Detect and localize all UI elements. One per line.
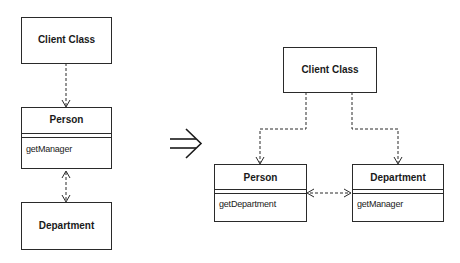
before-person-class-box: Person getManager	[21, 107, 112, 169]
class-name: Client Class	[22, 34, 111, 45]
class-name: Person	[22, 114, 111, 125]
class-name: Department	[353, 172, 443, 183]
attributes-separator	[215, 189, 306, 190]
methods-separator	[215, 193, 306, 194]
methods-separator	[353, 193, 443, 194]
attributes-separator	[22, 133, 111, 134]
dependency-client-department-right	[352, 92, 398, 163]
method: getManager	[357, 199, 403, 209]
method: getManager	[26, 144, 72, 154]
transform-arrow-icon	[170, 129, 201, 158]
dependency-client-person-right	[260, 92, 306, 163]
class-name: Client Class	[284, 64, 376, 75]
after-department-class-box: Department getManager	[352, 164, 444, 222]
before-client-class-box: Client Class	[21, 17, 112, 64]
class-name: Department	[22, 220, 111, 231]
before-department-class-box: Department	[21, 202, 112, 250]
class-name: Person	[215, 172, 306, 183]
after-person-class-box: Person getDepartment	[214, 164, 307, 222]
attributes-separator	[353, 189, 443, 190]
methods-separator	[22, 137, 111, 138]
method: getDepartment	[219, 199, 276, 209]
after-client-class-box: Client Class	[283, 47, 377, 93]
